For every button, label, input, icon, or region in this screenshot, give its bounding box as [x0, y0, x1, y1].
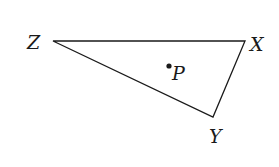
triangle-zxy: [53, 41, 245, 117]
point-p-dot: [166, 63, 171, 68]
triangle-diagram: Z X Y P: [0, 0, 279, 167]
point-label-p: P: [171, 62, 186, 84]
vertex-label-x: X: [248, 33, 265, 55]
vertex-label-y: Y: [209, 125, 224, 147]
vertex-label-z: Z: [26, 31, 41, 53]
